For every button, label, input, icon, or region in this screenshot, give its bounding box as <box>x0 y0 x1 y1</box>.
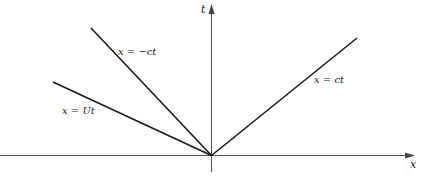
label-x-equals-Ut: x = Ut <box>62 105 96 116</box>
t-axis-label: t <box>201 3 206 16</box>
label-x-equals-minus-ct: x = −ct <box>118 46 157 57</box>
line-x-equals-Ut <box>53 82 212 156</box>
spacetime-diagram: t x x = ct x = −ct x = Ut <box>0 0 422 185</box>
label-x-equals-ct: x = ct <box>314 74 345 85</box>
x-axis-label: x <box>410 158 417 171</box>
line-x-equals-ct <box>212 38 358 156</box>
